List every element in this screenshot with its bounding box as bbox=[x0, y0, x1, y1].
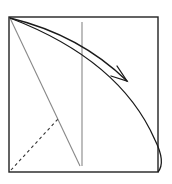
valley-fold-line bbox=[11, 119, 58, 170]
folded-flap-edge bbox=[10, 18, 161, 172]
origami-diagram bbox=[0, 0, 172, 184]
paper-square bbox=[9, 17, 158, 172]
fold-arrow-curve bbox=[10, 18, 127, 81]
